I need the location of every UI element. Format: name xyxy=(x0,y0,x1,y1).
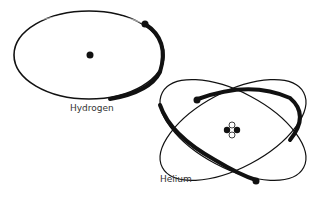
helium-label: Helium xyxy=(160,174,192,184)
hydrogen-electron xyxy=(142,21,149,28)
hydrogen-atom xyxy=(14,11,164,99)
hydrogen-label: Hydrogen xyxy=(70,103,114,113)
helium-electron-1 xyxy=(194,97,201,104)
hydrogen-electron-trail xyxy=(110,24,163,99)
atom-diagram xyxy=(0,0,318,197)
hydrogen-nucleus xyxy=(87,52,94,59)
helium-nucleus xyxy=(224,122,240,138)
helium-electron-2 xyxy=(253,178,260,185)
